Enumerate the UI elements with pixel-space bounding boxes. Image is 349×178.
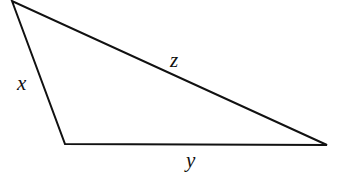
triangle-shape	[0, 0, 349, 178]
side-label-z: z	[170, 50, 178, 71]
side-label-x: x	[17, 73, 26, 94]
side-label-y: y	[186, 150, 195, 171]
triangle-diagram: x z y	[0, 0, 349, 178]
